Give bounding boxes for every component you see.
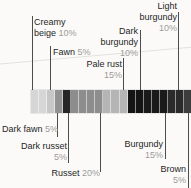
label-dark-fawn-pct: 5% <box>45 124 58 134</box>
label-dark-burgundy-name2: burgundy <box>100 37 138 47</box>
label-fawn: Fawn 5% <box>53 47 91 58</box>
color-proportion-chart: Creamy beige 10% Fawn 5% Pale rust 15% D… <box>0 0 191 188</box>
label-dark-burgundy: Dark burgundy 10% <box>100 26 138 59</box>
label-burgundy-name: Burgundy <box>124 139 163 149</box>
label-light-burgundy-name: Light <box>157 1 177 11</box>
label-creamy-beige-name2: beige <box>34 28 56 38</box>
callout-line-russet <box>100 113 101 172</box>
bar-segment-pale-rust <box>111 90 119 113</box>
bar-segment-creamy-beige <box>39 90 47 113</box>
label-dark-russet-name: Dark russet <box>21 141 67 151</box>
label-dark-burgundy-pct: 10% <box>120 48 138 58</box>
label-creamy-beige-pct: 10% <box>59 28 77 38</box>
label-creamy-beige: Creamy beige 10% <box>34 17 77 39</box>
label-russet-pct: 20% <box>82 168 100 178</box>
bar-segment-fawn <box>47 90 55 113</box>
callout-line-dark-russet <box>68 113 69 163</box>
bar-segment-russet <box>79 90 87 113</box>
bar-segment-brown <box>184 90 191 113</box>
label-dark-burgundy-name: Dark <box>119 26 138 36</box>
callout-line-dark-burgundy <box>140 30 141 90</box>
label-dark-russet-pct: 5% <box>54 152 67 162</box>
label-pale-rust-pct: 15% <box>104 70 122 80</box>
label-pale-rust: Pale rust 15% <box>86 59 122 81</box>
label-dark-russet: Dark russet 5% <box>21 141 67 163</box>
label-creamy-beige-name: Creamy <box>34 17 66 27</box>
label-brown-name: Brown <box>160 164 186 174</box>
bar-segment-pale-rust <box>120 90 128 113</box>
bar-segment-burgundy <box>144 90 152 113</box>
bar-segment-creamy-beige <box>31 90 39 113</box>
callout-line-burgundy <box>165 113 166 159</box>
label-pale-rust-name: Pale rust <box>86 59 122 69</box>
label-fawn-pct: 5% <box>78 47 91 57</box>
label-burgundy: Burgundy 15% <box>124 139 163 161</box>
callout-line-pale-rust <box>123 58 124 90</box>
bar-segment-pale-rust <box>103 90 111 113</box>
label-burgundy-pct: 15% <box>145 150 163 160</box>
bar-segment-light-burgundy <box>176 90 184 113</box>
label-dark-fawn: Dark fawn 5% <box>2 124 58 135</box>
bar-segment-russet <box>87 90 95 113</box>
bar-segment-burgundy <box>152 90 160 113</box>
label-russet-name: Russet <box>51 168 79 178</box>
label-dark-fawn-name: Dark fawn <box>2 124 43 134</box>
bar-segment-dark-russet <box>63 90 71 113</box>
bar-segment-burgundy <box>160 90 168 113</box>
bar-segment-russet <box>95 90 103 113</box>
color-bar <box>31 90 191 113</box>
label-russet: Russet 20% <box>51 168 100 179</box>
callout-line-fawn <box>50 46 51 90</box>
callout-line-brown <box>188 113 189 188</box>
bar-segment-light-burgundy <box>168 90 176 113</box>
bar-segment-dark-fawn <box>55 90 63 113</box>
label-light-burgundy-pct: 10% <box>159 23 177 33</box>
label-brown-pct: 5% <box>173 175 186 185</box>
label-light-burgundy-name2: burgundy <box>139 12 177 22</box>
bar-segment-russet <box>71 90 79 113</box>
callout-line-creamy-beige <box>32 16 33 90</box>
label-fawn-name: Fawn <box>53 47 75 57</box>
label-brown: Brown 5% <box>160 164 186 186</box>
bar-segment-dark-burgundy <box>128 90 136 113</box>
callout-line-light-burgundy <box>178 12 179 90</box>
bar-segment-dark-burgundy <box>136 90 144 113</box>
label-light-burgundy: Light burgundy 10% <box>139 1 177 34</box>
